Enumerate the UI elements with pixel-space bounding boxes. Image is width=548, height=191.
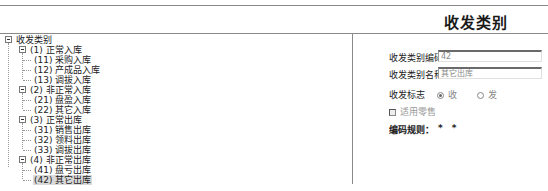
top-divider	[0, 5, 548, 6]
flag-radio-receive[interactable]: 收	[437, 88, 457, 101]
radio-label: 发	[488, 90, 497, 100]
tree-root[interactable]: 收发类别	[16, 35, 52, 45]
tree-connector	[22, 93, 23, 109]
collapse-icon[interactable]	[5, 36, 12, 43]
radio-label: 收	[448, 90, 457, 100]
collapse-icon[interactable]	[19, 156, 26, 163]
flag-radio-issue[interactable]: 发	[477, 88, 497, 101]
rule-label: 编码规则：	[389, 123, 434, 136]
tree-item-11[interactable]: (11) 采购入库	[34, 55, 91, 65]
tree-item-21[interactable]: (21) 盘盈入库	[34, 95, 91, 105]
code-field[interactable]: 42	[438, 50, 542, 62]
tree-root-label: 收发类别	[16, 35, 52, 45]
collapse-icon[interactable]	[19, 46, 26, 53]
tree-connector	[22, 163, 23, 179]
tree-item-13[interactable]: (13) 调拔入库	[34, 75, 91, 85]
rule-value: * *	[438, 123, 460, 133]
name-field[interactable]: 其它出库	[438, 67, 542, 79]
tree-item-42-selected[interactable]: (42) 其它出库	[33, 175, 92, 185]
page-title: 收发类别	[444, 11, 508, 32]
flag-label: 收发标志	[389, 88, 425, 101]
name-label: 收发类别名称	[389, 68, 443, 81]
tree-connector	[22, 53, 23, 79]
tree-group-4[interactable]: (4) 非正常出库	[30, 155, 91, 165]
pane-divider	[352, 33, 353, 184]
tree-item-41[interactable]: (41) 盘亏出库	[34, 165, 91, 175]
tree-item-31[interactable]: (31) 销售出库	[34, 125, 91, 135]
header-divider	[0, 33, 548, 34]
tree-item-33[interactable]: (33) 调拔出库	[34, 145, 91, 155]
tree-connector	[8, 43, 9, 167]
code-label: 收发类别编码	[389, 51, 443, 64]
tree-connector	[22, 123, 23, 149]
collapse-icon[interactable]	[19, 116, 26, 123]
retail-checkbox[interactable]: 适用零售	[389, 105, 436, 118]
tree-item-22[interactable]: (22) 其它入库	[34, 105, 91, 115]
checkbox-label: 适用零售	[400, 107, 436, 117]
collapse-icon[interactable]	[19, 86, 26, 93]
tree-item-12[interactable]: (12) 产成品入库	[34, 65, 100, 75]
tree-group-3[interactable]: (3) 正常出库	[30, 115, 82, 125]
tree-item-32[interactable]: (32) 领料出库	[34, 135, 91, 145]
radio-unselected-icon	[477, 92, 484, 99]
tree-group-2[interactable]: (2) 非正常入库	[30, 85, 91, 95]
tree-group-1[interactable]: (1) 正常入库	[30, 45, 82, 55]
radio-selected-icon	[437, 92, 444, 99]
checkbox-icon	[389, 109, 396, 116]
